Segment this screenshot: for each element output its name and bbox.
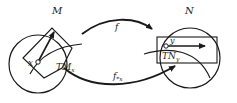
label-x: x: [28, 58, 33, 68]
label-n: N: [184, 5, 195, 16]
label-tmx: TMx: [56, 62, 75, 73]
label-f: f: [114, 22, 120, 32]
manifold-map-diagram: M x TMx N y TNy f f*x: [0, 0, 237, 103]
map-pushforward: f*x: [64, 66, 175, 84]
diagram-canvas: M x TMx N y TNy f f*x: [0, 0, 237, 103]
manifold-m: M x TMx: [9, 5, 82, 93]
label-f-star-x: f*x: [112, 71, 123, 82]
label-y: y: [169, 36, 175, 45]
point-y: [164, 44, 168, 48]
point-x: [36, 60, 40, 64]
label-tny: TNy: [162, 51, 180, 63]
label-m: M: [51, 5, 63, 16]
map-f: f: [82, 20, 152, 34]
